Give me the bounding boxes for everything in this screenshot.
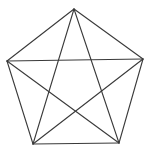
diagram-canvas <box>0 0 151 157</box>
pentagram-diagonal-right-to-left <box>7 59 143 61</box>
pentagon-side-bottom-left-to-left <box>7 61 33 144</box>
pentagram-diagonal-top-to-bottom-right <box>74 9 119 143</box>
pentagon-side-right-to-bottom-right <box>119 59 143 143</box>
pentagon-side-bottom-right-to-bottom-left <box>33 143 119 144</box>
pentagram-diagonal-right-to-bottom-left <box>33 59 143 144</box>
pentagram-diagonal-top-to-bottom-left <box>33 9 74 144</box>
pentagon-complete-graph <box>0 0 151 157</box>
pentagon-side-left-to-top <box>7 9 74 61</box>
pentagram-diagonal-bottom-right-to-left <box>7 61 119 143</box>
pentagon-side-top-to-right <box>74 9 143 59</box>
